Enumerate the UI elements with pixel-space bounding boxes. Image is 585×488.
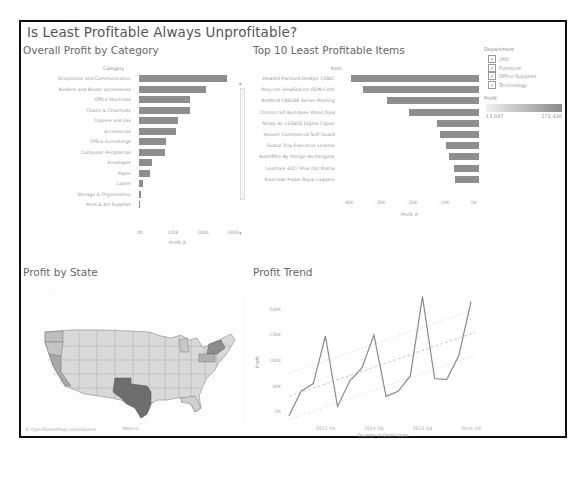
item-label: Bretford CR8500 Series Meeting — [261, 98, 335, 103]
dashboard-frame: Is Least Profitable Always Unprofitable?… — [19, 20, 567, 438]
category-panel-title: Overall Profit by Category — [23, 44, 159, 56]
category-label: Chairs & Chairmats — [87, 108, 132, 113]
item-label: Global Troy Executive Leather — [267, 143, 335, 148]
department-option[interactable]: ✓Technology — [484, 81, 569, 90]
category-bar[interactable] — [139, 180, 143, 187]
profit-trend-line-chart[interactable]: 200K150K100K50K0KProfit2013 Q42014 Q4201… — [253, 282, 483, 437]
category-label: Labels — [116, 181, 131, 186]
item-bar[interactable] — [454, 165, 479, 172]
category-label: Copiers and Fax — [94, 118, 131, 123]
category-bar[interactable] — [139, 191, 141, 198]
category-label: Office Machines — [95, 97, 132, 102]
trend-panel-title: Profit Trend — [253, 266, 312, 278]
item-label: Hoover Commercial Soft Guard — [264, 132, 335, 137]
checkbox-icon[interactable]: ✓ — [488, 64, 496, 72]
department-option[interactable]: ✓Furniture — [484, 64, 569, 73]
category-scrollbar[interactable]: ▴ ▾ — [239, 80, 244, 240]
category-bar[interactable] — [139, 75, 227, 82]
category-x-tick: 100K — [167, 230, 179, 235]
trend-x-axis-label: Quarter of Order Date — [358, 433, 409, 437]
item-bar[interactable] — [449, 153, 479, 160]
category-label: Telephones and Communication — [58, 76, 132, 81]
category-bar[interactable] — [139, 117, 178, 124]
map-attribution[interactable]: © OpenStreetMap contributors — [25, 427, 96, 432]
category-x-tick: 0K — [137, 230, 143, 235]
trend-y-axis-label: Profit — [255, 356, 260, 368]
category-bar[interactable] — [139, 201, 140, 208]
category-bar[interactable] — [139, 128, 176, 135]
dashboard-title: Is Least Profitable Always Unprofitable? — [27, 24, 297, 40]
category-bar[interactable] — [139, 159, 152, 166]
department-option[interactable]: ✓(All) — [484, 55, 569, 64]
department-option[interactable]: ✓Office Supplies — [484, 72, 569, 81]
items-axis-label: Profit ⇵ — [401, 212, 418, 217]
items-x-tick: -30K — [375, 200, 386, 205]
category-bar[interactable] — [139, 107, 190, 114]
category-x-tick: 300K — [227, 230, 239, 235]
department-option-label: (All) — [499, 56, 509, 62]
profit-color-gradient — [486, 104, 562, 112]
item-label: Sharp AL-1530CS Digital Copier — [262, 121, 335, 126]
item-bar[interactable] — [387, 97, 479, 104]
category-label: Binders and Binder Accessories — [59, 87, 131, 92]
items-x-tick: -20K — [407, 200, 418, 205]
scroll-down-icon[interactable]: ▾ — [239, 230, 242, 236]
us-state-map[interactable]: Mexico — [31, 280, 251, 435]
item-bar[interactable] — [409, 109, 479, 116]
item-bar[interactable] — [437, 120, 479, 127]
scroll-up-icon[interactable]: ▴ — [239, 80, 242, 86]
profit-line[interactable] — [289, 297, 471, 416]
item-bar[interactable] — [455, 176, 479, 183]
category-bar[interactable] — [139, 96, 190, 103]
category-bar[interactable] — [139, 149, 165, 156]
checkbox-icon[interactable]: ✓ — [488, 81, 496, 89]
trend-y-tick: 200K — [269, 307, 282, 312]
category-label: Office Furnishings — [90, 139, 131, 144]
scroll-track[interactable] — [240, 88, 245, 200]
checkbox-icon[interactable]: ✓ — [488, 72, 496, 80]
category-label: Storage & Organization — [77, 192, 131, 197]
checkbox-icon[interactable]: ✓ — [488, 55, 496, 63]
category-axis-label: Profit ⇵ — [169, 240, 186, 245]
category-bar[interactable] — [139, 86, 206, 93]
item-bar[interactable] — [446, 142, 479, 149]
profit-legend-title: Profit — [484, 95, 569, 101]
department-option-label: Office Supplies — [499, 73, 536, 79]
category-header: Category — [103, 66, 124, 71]
item-bar[interactable] — [363, 86, 479, 93]
trend-line — [289, 332, 475, 396]
trend-y-tick: 50K — [272, 384, 282, 389]
state-pennsylvania[interactable] — [199, 354, 215, 362]
category-label: Envelopes — [107, 160, 131, 165]
trend-x-tick: 2014 Q4 — [364, 426, 384, 431]
items-x-tick: 0K — [471, 200, 477, 205]
items-panel-title: Top 10 Least Profitable Items — [253, 44, 405, 56]
item-bar[interactable] — [351, 75, 479, 82]
state-panel-title: Profit by State — [23, 266, 98, 278]
item-label: Riverside Palais Royal Lawyers — [265, 177, 335, 182]
item-label: BoxOffice By Design Rectangular — [259, 154, 335, 159]
category-label: Paper — [118, 171, 131, 176]
item-label: Lexmark 4227 Plus Dot Matrix — [266, 166, 335, 171]
department-filter: ✓(All)✓Furniture✓Office Supplies✓Technol… — [484, 55, 569, 89]
trend-lower-band — [289, 355, 475, 419]
category-x-tick: 200K — [197, 230, 209, 235]
category-bar[interactable] — [139, 138, 166, 145]
profit-max-label: 172,426 — [541, 113, 562, 119]
trend-x-tick: 2015 Q4 — [413, 426, 433, 431]
trend-upper-band — [289, 309, 475, 373]
trend-y-tick: 150K — [269, 332, 282, 337]
category-bar[interactable] — [139, 170, 150, 177]
trend-y-tick: 0K — [275, 409, 282, 414]
item-bar[interactable] — [440, 131, 479, 138]
legend-panel: Department ✓(All)✓Furniture✓Office Suppl… — [484, 46, 569, 119]
trend-x-tick: 2016 Q4 — [461, 426, 481, 431]
trend-x-tick: 2013 Q4 — [316, 426, 336, 431]
state-michigan[interactable] — [179, 338, 189, 352]
category-label: Accessories — [104, 129, 131, 134]
trend-y-tick: 100K — [269, 358, 282, 363]
state-washington[interactable] — [45, 331, 63, 342]
department-filter-title: Department — [484, 46, 569, 52]
category-label: Computer Peripherals — [81, 150, 131, 155]
map-label-mexico: Mexico — [123, 426, 139, 431]
